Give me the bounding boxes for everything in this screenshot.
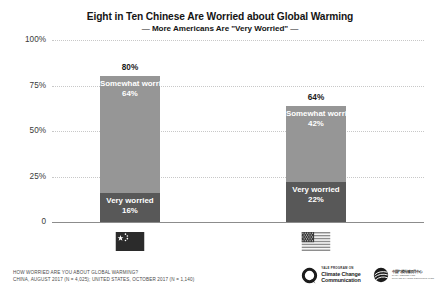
x-category-united-states xyxy=(294,232,338,251)
segment-label-united-states-somewhat-worried: Somewhat worried xyxy=(286,106,346,119)
flag-united-states-icon xyxy=(294,232,338,251)
bar-total-label-united-states: 64% xyxy=(286,93,346,102)
logo-yale-text: YALE PROGRAM ON Climate Change Communica… xyxy=(321,267,360,283)
logo-yale-kicker: YALE PROGRAM ON xyxy=(321,267,360,270)
segment-label-united-states-very-worried: Very worried xyxy=(286,182,346,195)
bar-total-label-china: 80% xyxy=(100,63,160,72)
y-tick-label-50: 50% xyxy=(6,126,46,135)
segment-label-china-somewhat-worried: Somewhat worried xyxy=(100,76,160,89)
logo-china-text: 中国气候传播项目中心 CHINA CENTER FOR CLIMATE CHAN… xyxy=(392,270,434,281)
bar-united-states[interactable]: 64% Somewhat worried 42% Very worried 22… xyxy=(286,106,346,222)
bar-segment-china-very-worried[interactable]: Very worried 16% xyxy=(100,193,160,222)
logo-china-sub2: CLIMATE CHANGE COMMUNICATION xyxy=(392,277,434,280)
logo-bar: YALE PROGRAM ON Climate Change Communica… xyxy=(301,267,434,284)
globe-swirl-icon xyxy=(373,267,389,283)
bar-china[interactable]: 80% Somewhat worried 64% Very worried 16… xyxy=(100,76,160,222)
y-tick-label-0: 0 xyxy=(6,217,46,226)
plot-area: 80% Somewhat worried 64% Very worried 16… xyxy=(52,40,424,222)
segment-value-united-states-somewhat-worried: 42% xyxy=(286,119,346,129)
speech-bubble-icon xyxy=(301,267,318,284)
title-block: Eight in Ten Chinese Are Worried about G… xyxy=(0,10,440,35)
segment-value-china-very-worried: 16% xyxy=(100,206,160,216)
flag-china-icon xyxy=(108,232,152,251)
logo-yale-climate-change-communication: YALE PROGRAM ON Climate Change Communica… xyxy=(301,267,360,284)
gridline-100 xyxy=(52,40,424,41)
bar-segment-china-somewhat-worried[interactable]: Somewhat worried 64% xyxy=(100,76,160,192)
logo-yale-line2: Communication xyxy=(321,277,360,283)
segment-value-china-somewhat-worried: 64% xyxy=(100,89,160,99)
y-tick-label-25: 25% xyxy=(6,172,46,181)
bar-segment-united-states-very-worried[interactable]: Very worried 22% xyxy=(286,182,346,222)
footer-note: HOW WORRIED ARE YOU ABOUT GLOBAL WARMING… xyxy=(13,269,194,283)
chart-subtitle: — More Americans Are "Very Worried" — xyxy=(0,23,440,35)
segment-value-united-states-very-worried: 22% xyxy=(286,195,346,205)
x-axis-baseline xyxy=(52,222,424,223)
y-tick-label-100: 100% xyxy=(6,35,46,44)
x-category-china xyxy=(108,232,152,251)
segment-label-china-very-worried: Very worried xyxy=(100,193,160,206)
footer-source: CHINA, AUGUST 2017 (N = 4,025); UNITED S… xyxy=(13,276,194,283)
logo-china-climate-communication: 中国气候传播项目中心 CHINA CENTER FOR CLIMATE CHAN… xyxy=(373,267,434,283)
y-tick-label-75: 75% xyxy=(6,81,46,90)
page-title: Eight in Ten Chinese Are Worried about G… xyxy=(0,10,440,23)
footer-question: HOW WORRIED ARE YOU ABOUT GLOBAL WARMING… xyxy=(13,269,194,276)
bar-segment-united-states-somewhat-worried[interactable]: Somewhat worried 42% xyxy=(286,106,346,182)
